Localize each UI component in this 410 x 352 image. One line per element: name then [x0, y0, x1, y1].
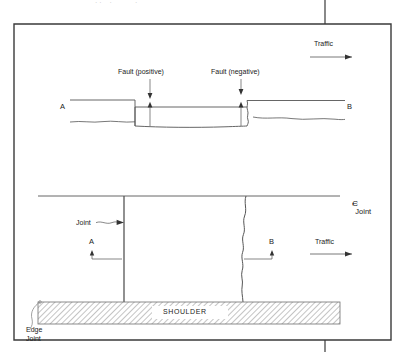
station-label-a-profile: A	[60, 103, 65, 112]
centerline-joint-text: Joint	[355, 207, 371, 216]
station-label-b-profile: B	[347, 103, 352, 112]
figure-page: · · · ·	[0, 0, 410, 352]
traffic-arrow-plan	[310, 251, 352, 256]
joint-leader	[96, 220, 124, 225]
slab-middle-base	[135, 126, 247, 127]
edge-joint-label-line1: Edge	[26, 326, 42, 334]
figure-border	[14, 24, 391, 340]
centerline-symbol-icon: ⌐C	[352, 199, 359, 208]
fault-negative-leader	[239, 79, 244, 126]
station-label-b-plan: B	[269, 238, 274, 247]
edge-joint-label-line2: Joint	[26, 335, 41, 343]
diagram-canvas	[0, 0, 410, 352]
fault-negative-crack-face	[247, 101, 248, 127]
fault-negative-label: Fault (negative)	[211, 68, 260, 76]
section-marker-a	[90, 250, 122, 259]
centerline-joint-label: ⌐C Joint	[344, 190, 371, 226]
traffic-arrow-profile	[310, 54, 352, 59]
subgrade-right-wavy	[253, 117, 345, 120]
shoulder-label: SHOULDER	[163, 308, 207, 316]
fault-positive-label: Fault (positive)	[118, 68, 164, 76]
fault-positive-leader	[148, 79, 153, 126]
station-label-a-plan: A	[89, 238, 94, 247]
traffic-label-profile: Traffic	[314, 40, 333, 48]
centerline-c-glyph: C	[352, 199, 357, 208]
subgrade-left-wavy	[70, 121, 135, 122]
transverse-crack-line	[242, 196, 246, 302]
section-marker-b	[244, 250, 274, 259]
joint-label: Joint	[76, 219, 91, 227]
traffic-label-plan: Traffic	[315, 238, 334, 246]
